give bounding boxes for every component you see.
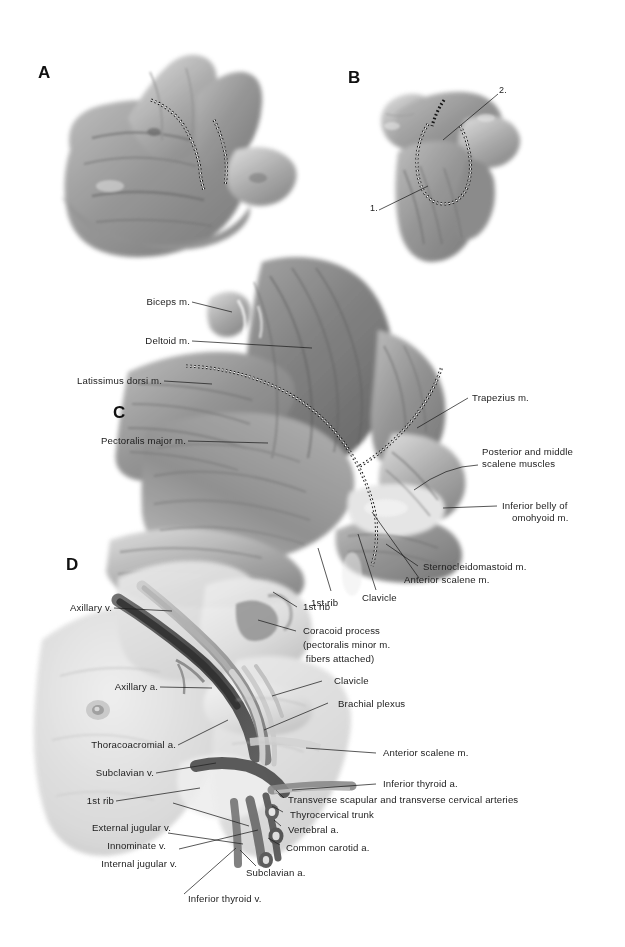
label-pectoralis-major-m: Pectoralis major m. — [24, 435, 186, 447]
label-anterior-scalene-m: Anterior scalene m. — [404, 574, 490, 586]
label-inferior-belly-omohyoid-line1: Inferior belly of — [502, 500, 567, 512]
label-internal-jugular-v: Internal jugular v. — [44, 858, 177, 870]
label-external-jugular-v: External jugular v. — [38, 822, 171, 834]
label-posterior-middle-scalene-line2: scalene muscles — [482, 458, 555, 470]
label-thoracoacromial-a: Thoracoacromial a. — [24, 739, 176, 751]
label-subclavian-a: Subclavian a. — [246, 867, 306, 879]
label-clavicle-c: Clavicle — [362, 592, 397, 604]
panel-a-artwork — [62, 55, 297, 257]
label-sternocleidomastoid-m: Sternocleidomastoid m. — [423, 561, 527, 573]
label-axillary-a: Axillary a. — [46, 681, 158, 693]
label-coracoid-process-line2: (pectoralis minor m. — [303, 639, 390, 651]
label-transverse-scapular-cervical-arteries: Transverse scapular and transverse cervi… — [288, 794, 518, 806]
label-common-carotid-a: Common carotid a. — [286, 842, 370, 854]
label-axillary-v: Axillary v. — [0, 602, 112, 614]
panel-letter-c: C — [113, 404, 126, 421]
label-deltoid-m: Deltoid m. — [30, 335, 190, 347]
label-biceps-m: Biceps m. — [30, 296, 190, 308]
label-coracoid-process-line1: Coracoid process — [303, 625, 380, 637]
label-trapezius-m: Trapezius m. — [472, 392, 529, 404]
panel-letter-d: D — [66, 556, 79, 573]
label-inferior-belly-omohyoid-line2: omohyoid m. — [512, 512, 569, 524]
label-inferior-thyroid-v: Inferior thyroid v. — [188, 893, 262, 905]
panel-letter-b: B — [348, 69, 361, 86]
label-clavicle-d: Clavicle — [334, 675, 369, 687]
panel-c-artwork — [106, 257, 466, 608]
label-posterior-middle-scalene-line1: Posterior and middle — [482, 446, 573, 458]
panel-b-artwork — [381, 92, 520, 262]
label-brachial-plexus: Brachial plexus — [338, 698, 405, 710]
anatomy-plate: A B C D 2. 1. Biceps m. Deltoid m. Latis… — [0, 0, 625, 947]
label-vertebral-a: Vertebral a. — [288, 824, 339, 836]
panel-letter-a: A — [38, 64, 51, 81]
label-inferior-thyroid-a: Inferior thyroid a. — [383, 778, 458, 790]
label-latissimus-dorsi-m: Latissimus dorsi m. — [4, 375, 162, 387]
label-innominate-v: Innominate v. — [62, 840, 166, 852]
marker-b-2: 2. — [499, 85, 507, 97]
label-coracoid-process-line3: fibers attached) — [303, 653, 374, 665]
label-1st-rib-top-d: 1st rib — [303, 601, 330, 613]
label-anterior-scalene-m-d: Anterior scalene m. — [383, 747, 469, 759]
marker-b-1: 1. — [370, 203, 378, 215]
label-1st-rib-d: 1st rib — [54, 795, 114, 807]
label-thyrocervical-trunk: Thyrocervical trunk — [290, 809, 374, 821]
label-subclavian-v: Subclavian v. — [44, 767, 154, 779]
